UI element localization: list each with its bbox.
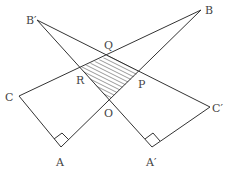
label-p: P <box>138 78 146 91</box>
segment-b-prime-c-prime <box>37 20 210 107</box>
label-r: R <box>76 74 85 87</box>
geometry-figure: B′ B C C′ A A′ O Q R P <box>0 0 228 173</box>
label-o: O <box>104 107 113 120</box>
right-angle-mark-a-prime <box>145 133 160 141</box>
segment-b-prime-a-prime <box>37 20 152 147</box>
label-b: B <box>205 4 213 17</box>
label-b-prime: B′ <box>26 14 37 27</box>
point-labels: B′ B C C′ A A′ O Q R P <box>5 4 223 169</box>
segment-ca <box>19 96 61 147</box>
label-c: C <box>5 91 13 104</box>
label-q: Q <box>104 39 113 52</box>
segment-a-prime-c-prime <box>152 107 210 147</box>
segment-cb <box>19 10 201 96</box>
label-a: A <box>55 156 65 169</box>
label-a-prime: A′ <box>145 156 157 169</box>
label-c-prime: C′ <box>212 102 223 115</box>
right-angle-mark-a <box>54 133 69 140</box>
